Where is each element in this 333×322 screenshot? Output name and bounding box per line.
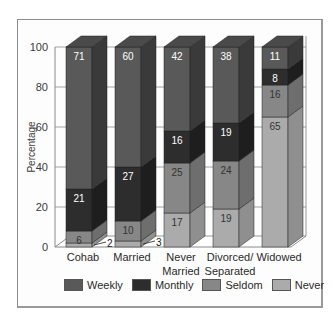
- legend-swatch-monthly: [132, 279, 151, 291]
- legend-item-never: Never: [272, 279, 324, 291]
- legend-label: Never: [295, 279, 324, 291]
- value-label: 42: [171, 51, 183, 62]
- bar-segment-weekly: [115, 47, 141, 167]
- x-category-label: Divorced/: [207, 251, 254, 263]
- value-label: 38: [220, 51, 232, 62]
- value-label: 2: [107, 238, 113, 249]
- legend-item-seldom: Seldom: [202, 279, 262, 291]
- bar-side-weekly: [92, 36, 107, 189]
- value-label: 10: [122, 225, 134, 236]
- value-label: 25: [171, 167, 183, 178]
- value-label: 27: [122, 171, 134, 182]
- bar-side-monthly: [141, 156, 156, 221]
- value-label: 24: [220, 165, 232, 176]
- y-tick-label: 0: [42, 241, 48, 253]
- bar-side-never: [288, 106, 303, 247]
- legend-label: Monthly: [155, 279, 194, 291]
- value-label: 17: [171, 217, 183, 228]
- value-label: 11: [270, 51, 281, 62]
- y-tick-label: 100: [30, 41, 48, 53]
- bar-side-weekly: [190, 36, 205, 131]
- legend-swatch-weekly: [64, 279, 83, 291]
- y-tick-label: 40: [36, 161, 48, 173]
- y-axis-label: Percentage: [26, 121, 37, 173]
- x-category-label: Separated: [205, 265, 256, 277]
- x-category-label: Married: [162, 265, 199, 277]
- x-category-label: Cohab: [67, 251, 99, 263]
- legend-item-monthly: Monthly: [132, 279, 194, 291]
- legend-label: Seldom: [225, 279, 262, 291]
- value-label: 19: [220, 213, 232, 224]
- bar-segment-never: [115, 241, 141, 247]
- chart-legend: Weekly Monthly Seldom Never: [64, 279, 324, 291]
- legend-item-weekly: Weekly: [64, 279, 123, 291]
- value-label: 60: [122, 51, 134, 62]
- y-tick-label: 20: [36, 201, 48, 213]
- x-category-label: Never: [166, 251, 196, 263]
- value-label: 71: [73, 51, 85, 62]
- value-label: 65: [269, 121, 281, 132]
- legend-label: Weekly: [87, 279, 123, 291]
- y-tick-label: 80: [36, 81, 48, 93]
- stacked-bar-chart: 020406080100Percentage262171Cohab3102760…: [0, 0, 333, 322]
- bar-side-weekly: [239, 36, 254, 123]
- bar-segment-weekly: [66, 47, 92, 189]
- bar-side-weekly: [141, 36, 156, 167]
- bar-segment-never: [262, 117, 288, 247]
- value-label: 21: [73, 193, 85, 204]
- value-label: 16: [171, 135, 183, 146]
- legend-swatch-never: [272, 279, 291, 291]
- value-label: 16: [269, 89, 281, 100]
- value-label: 3: [156, 237, 162, 248]
- x-category-label: Widowed: [256, 251, 301, 263]
- value-label: 8: [272, 73, 278, 84]
- legend-swatch-seldom: [202, 279, 221, 291]
- y-tick-label: 60: [36, 121, 48, 133]
- value-label: 6: [76, 235, 82, 246]
- x-category-label: Married: [113, 251, 150, 263]
- value-label: 19: [220, 127, 232, 138]
